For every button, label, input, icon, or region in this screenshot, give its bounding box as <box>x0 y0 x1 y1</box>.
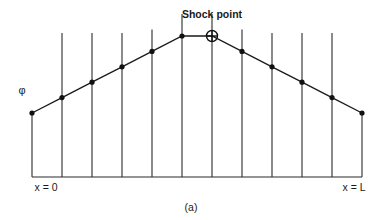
shock-point-label: Shock point <box>182 8 243 20</box>
shock-diagram: Shock point φ x = 0 x = L (a) <box>0 0 381 220</box>
node-points <box>29 33 364 115</box>
left-boundary-label: x = 0 <box>34 181 57 193</box>
panel-label: (a) <box>185 201 198 213</box>
node-point-7 <box>239 49 244 54</box>
node-point-1 <box>59 95 64 100</box>
node-point-0 <box>29 110 34 115</box>
node-point-4 <box>149 49 154 54</box>
node-point-10 <box>329 95 334 100</box>
node-point-3 <box>119 64 124 69</box>
right-boundary-label: x = L <box>342 181 365 193</box>
node-point-2 <box>89 80 94 85</box>
node-point-9 <box>299 80 304 85</box>
node-point-8 <box>269 64 274 69</box>
y-axis-symbol: φ <box>18 84 25 96</box>
phi-profile-line <box>32 36 362 113</box>
node-point-5 <box>179 33 184 38</box>
node-grid-lines <box>32 14 362 177</box>
node-point-11 <box>359 110 364 115</box>
